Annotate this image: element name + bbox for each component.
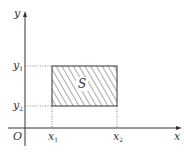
coordinate-diagram: S y x O y1 y2 x1 x2	[0, 0, 184, 153]
origin-label: O	[13, 130, 22, 143]
x-axis-label: x	[174, 130, 181, 143]
y-axis-arrow-icon	[23, 11, 27, 17]
y1-label: y1	[12, 59, 23, 72]
x2-label: x2	[113, 130, 123, 143]
y-axis-label: y	[13, 7, 21, 20]
y2-label: y2	[12, 99, 23, 112]
x1-label: x1	[48, 130, 58, 143]
region-label: S	[78, 77, 86, 91]
